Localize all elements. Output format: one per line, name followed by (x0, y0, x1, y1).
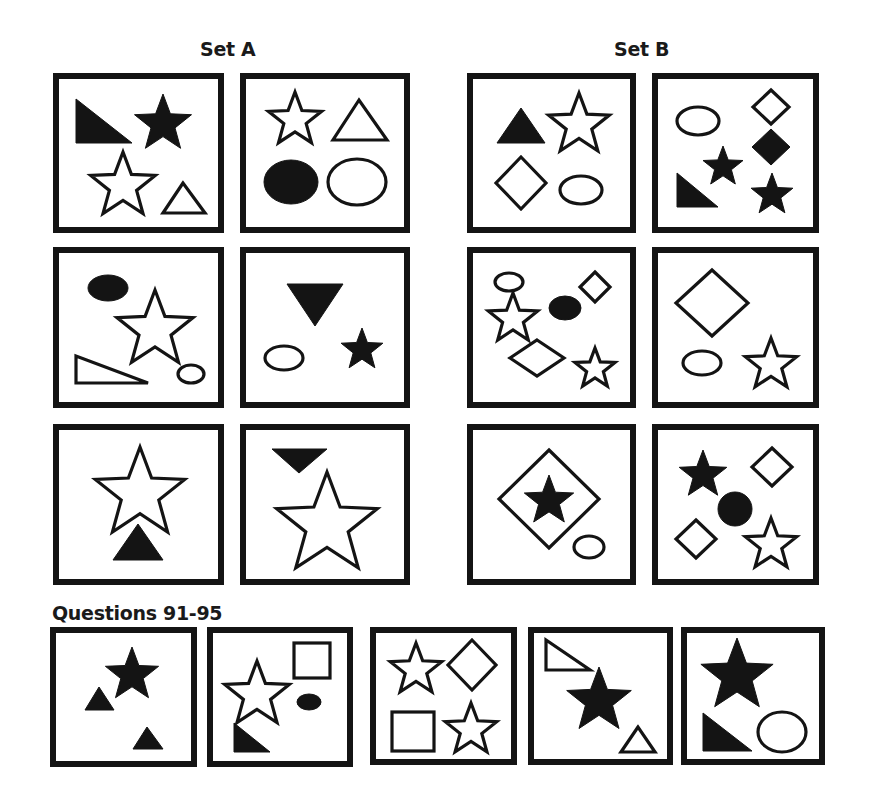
shapes-canvas (467, 424, 636, 585)
outline-star-icon (745, 518, 796, 567)
outline-star-icon (268, 92, 321, 143)
filled-right-triangle-icon (234, 723, 270, 752)
filled-ellipse-icon (88, 275, 128, 301)
outline-triangle-icon (333, 100, 387, 140)
outline-ellipse-icon (677, 107, 719, 135)
outline-diamond-icon (510, 340, 564, 376)
outline-diamond-icon (676, 270, 748, 336)
shapes-canvas (53, 424, 224, 585)
outline-star-icon (745, 338, 796, 387)
shapes-canvas (370, 627, 517, 765)
shapes-canvas (240, 73, 410, 233)
outline-diamond-icon (448, 640, 496, 690)
outline-triangle-icon (163, 183, 205, 213)
outline-ellipse-icon (574, 536, 604, 558)
panel-set-b-2 (652, 73, 819, 233)
outline-ellipse-icon (560, 176, 602, 204)
panel-set-b-3 (467, 247, 636, 408)
filled-ellipse-icon (297, 694, 321, 710)
outline-star-icon (488, 293, 537, 340)
panel-question-91 (50, 627, 197, 767)
set-a-heading: Set A (200, 38, 255, 60)
panel-question-94 (528, 627, 673, 765)
filled-star-icon (751, 173, 793, 213)
panel-set-a-3 (53, 247, 224, 408)
filled-circle-icon (718, 492, 752, 526)
panel-set-a-4 (240, 247, 410, 408)
shapes-canvas (240, 424, 410, 585)
filled-triangle-icon (133, 727, 163, 749)
filled-star-icon (135, 94, 192, 148)
shapes-canvas (240, 247, 410, 408)
set-b-heading: Set B (614, 38, 669, 60)
filled-ellipse-icon (264, 160, 318, 204)
panel-set-a-1 (53, 73, 224, 233)
outline-star-icon (91, 152, 156, 214)
outline-square-icon (294, 643, 330, 678)
shapes-canvas (528, 627, 673, 765)
shapes-canvas (681, 627, 825, 765)
shapes-canvas (467, 73, 636, 233)
filled-star-icon (567, 667, 632, 729)
outline-star-icon (549, 93, 610, 151)
filled-ellipse-icon (549, 296, 581, 320)
panel-set-a-5 (53, 424, 224, 585)
outline-ellipse-icon (328, 159, 386, 205)
filled-inverted-triangle-icon (287, 284, 343, 326)
outline-star-icon (117, 290, 193, 362)
outline-star-icon (277, 472, 378, 568)
panel-question-95 (681, 627, 825, 765)
panel-set-b-1 (467, 73, 636, 233)
filled-star-icon (701, 638, 773, 707)
filled-star-icon (703, 146, 743, 184)
outline-ellipse-icon (758, 712, 806, 752)
panel-question-92 (207, 627, 353, 767)
outline-ellipse-icon (178, 365, 204, 383)
shapes-canvas (652, 247, 819, 408)
filled-triangle-icon (85, 687, 114, 710)
filled-triangle-icon (497, 108, 545, 143)
filled-star-icon (341, 328, 383, 368)
outline-star-icon (575, 348, 615, 386)
outline-star-icon (390, 643, 441, 692)
outline-right-triangle-icon (546, 640, 590, 670)
filled-star-icon (105, 647, 158, 698)
shapes-canvas (652, 73, 819, 233)
shapes-canvas (467, 247, 636, 408)
filled-right-triangle-icon (703, 713, 752, 751)
questions-heading: Questions 91-95 (52, 602, 222, 624)
filled-star-icon (679, 450, 727, 495)
filled-right-triangle-icon (76, 99, 132, 143)
outline-square-icon (392, 712, 434, 751)
filled-inverted-triangle-icon (272, 449, 327, 473)
outline-diamond-icon (752, 448, 792, 486)
outline-diamond-icon (496, 157, 546, 209)
shapes-canvas (207, 627, 353, 767)
outline-star-icon (95, 447, 184, 532)
outline-triangle-icon (621, 727, 655, 752)
filled-diamond-icon (752, 129, 790, 165)
panel-set-a-2 (240, 73, 410, 233)
outline-diamond-icon (580, 272, 610, 302)
panel-question-93 (370, 627, 517, 765)
outline-star-icon (445, 703, 496, 752)
outline-ellipse-icon (265, 346, 303, 370)
outline-ellipse-icon (683, 351, 721, 375)
shapes-canvas (652, 424, 819, 585)
panel-set-b-4 (652, 247, 819, 408)
outline-star-icon (225, 661, 290, 723)
panel-set-b-5 (467, 424, 636, 585)
panel-set-b-6 (652, 424, 819, 585)
shapes-canvas (50, 627, 197, 767)
filled-triangle-icon (113, 524, 163, 560)
panel-set-a-6 (240, 424, 410, 585)
outline-ellipse-icon (495, 273, 523, 291)
shapes-canvas (53, 247, 224, 408)
shapes-canvas (53, 73, 224, 233)
outline-diamond-icon (676, 520, 716, 558)
outline-diamond-icon (753, 90, 789, 124)
